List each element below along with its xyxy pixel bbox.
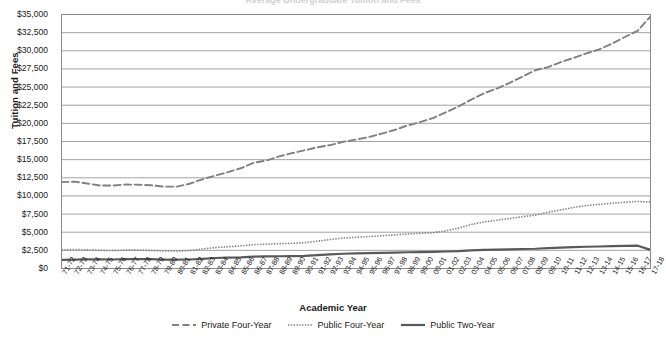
- y-axis-tick-label: $25,000: [0, 83, 48, 92]
- legend-item-2[interactable]: Public Two-Year: [400, 320, 495, 330]
- y-axis-tick-label: $27,500: [0, 64, 48, 73]
- y-axis-tick-label: $10,000: [0, 191, 48, 200]
- y-axis-tick-label: $12,500: [0, 173, 48, 182]
- plot-svg: [61, 14, 651, 269]
- legend-item-1[interactable]: Public Four-Year: [287, 320, 384, 330]
- series-lines: [62, 16, 651, 259]
- legend-swatch-dashed-icon: [171, 321, 197, 329]
- y-axis-tick-label: $2,500: [0, 246, 48, 255]
- chart-title: Average Undergraduate Tuition and Fees: [0, 0, 666, 5]
- y-axis-tick-label: $30,000: [0, 46, 48, 55]
- plot-area: [61, 14, 651, 269]
- legend-label: Private Four-Year: [201, 320, 271, 330]
- legend-item-0[interactable]: Private Four-Year: [171, 320, 271, 330]
- legend-label: Public Four-Year: [317, 320, 384, 330]
- y-axis-tick-label: $22,500: [0, 101, 48, 110]
- y-axis-tick-label: $5,000: [0, 228, 48, 237]
- legend-swatch-solid-icon: [400, 321, 426, 329]
- y-axis-tick-label: $17,500: [0, 137, 48, 146]
- tuition-and-fees-line-chart: Average Undergraduate Tuition and Fees T…: [0, 0, 666, 338]
- legend-swatch-dotted-icon: [287, 321, 313, 329]
- y-axis-tick-label: $32,500: [0, 28, 48, 37]
- chart-legend: Private Four-YearPublic Four-YearPublic …: [0, 320, 666, 330]
- y-axis-tick-label: $0: [0, 264, 48, 273]
- gridlines: [61, 15, 651, 269]
- legend-label: Public Two-Year: [430, 320, 495, 330]
- series-line-1: [62, 201, 651, 251]
- series-line-0: [62, 16, 651, 186]
- y-axis-tick-label: $20,000: [0, 119, 48, 128]
- y-axis-tick-label: $15,000: [0, 155, 48, 164]
- y-axis-tick-label: $35,000: [0, 10, 48, 19]
- y-axis-tick-label: $7,500: [0, 210, 48, 219]
- x-axis-title: Academic Year: [0, 302, 666, 313]
